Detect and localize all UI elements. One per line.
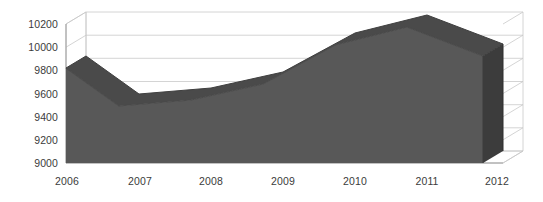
x-tick-label: 2006 [44, 176, 90, 187]
x-tick-label: 2009 [260, 176, 306, 187]
x-tick-label: 2007 [117, 176, 163, 187]
x-tick-label: 2008 [188, 176, 234, 187]
x-tick-label: 2012 [474, 176, 520, 187]
x-tick-label: 2010 [332, 176, 378, 187]
area-chart: 10200 10000 9800 9600 9400 9200 9000 200… [0, 0, 543, 202]
x-tick-label: 2011 [404, 176, 450, 187]
x-axis-tick-labels: 2006 2007 2008 2009 2010 2011 2012 [0, 0, 543, 202]
